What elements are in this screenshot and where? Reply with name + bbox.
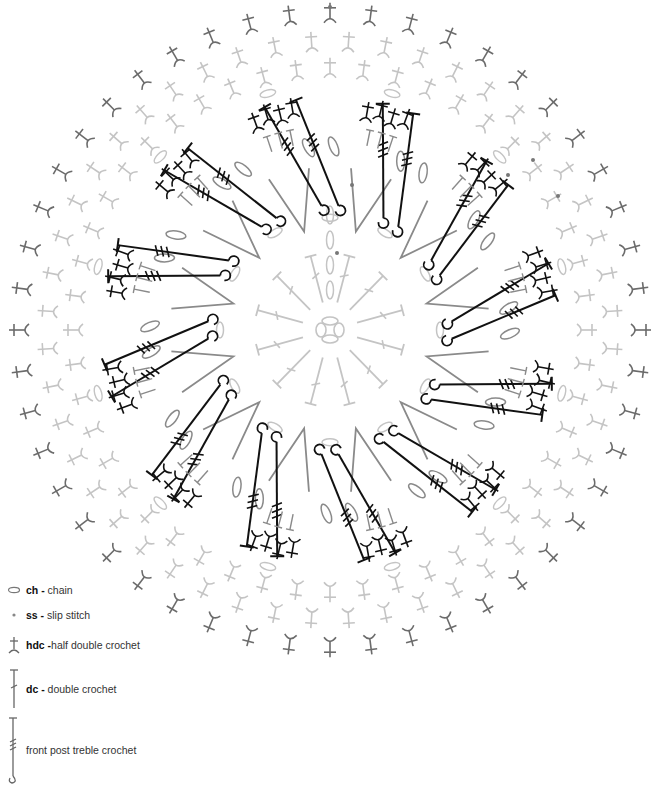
hdc-stitch — [377, 36, 393, 58]
hdc-stitch — [577, 324, 597, 336]
chain-stitch — [93, 258, 104, 275]
fan-stitch — [139, 262, 157, 275]
hdc-cluster-stitch — [161, 470, 184, 492]
hdc-stitch — [324, 582, 336, 602]
slip-stitch — [328, 5, 332, 9]
hdc-stitch — [597, 266, 619, 282]
center-ring — [316, 206, 344, 343]
fptr-stitch — [161, 164, 273, 236]
hdc-stitch — [241, 625, 258, 647]
hdc-stitch — [18, 404, 40, 421]
hdc-stitch — [377, 602, 393, 624]
hdc-cluster-stitch — [527, 385, 550, 402]
hdc-stitch — [222, 561, 241, 584]
hdc-stitch — [402, 12, 419, 34]
slip-stitch — [531, 158, 535, 162]
dc-stitch — [256, 337, 303, 355]
hdc-stitch — [71, 254, 93, 271]
fan-stitch — [178, 192, 195, 209]
hdc-stitch — [81, 421, 104, 440]
hdc-stitch — [419, 561, 438, 584]
hdc-stitch — [572, 448, 595, 468]
hdc-stitch — [565, 512, 588, 534]
hdc-stitch — [195, 577, 215, 600]
hdc-stitch — [363, 634, 378, 655]
hdc-stitch — [289, 59, 304, 80]
chain-stitch — [556, 385, 567, 402]
hdc-stitch — [356, 579, 371, 600]
hdc-stitch — [565, 126, 588, 148]
hdc-stitch — [388, 66, 405, 88]
hdc-stitch — [574, 289, 595, 304]
hdc-stitch — [162, 558, 183, 581]
fan-stitch — [363, 129, 374, 146]
hdc-stitch — [475, 44, 495, 67]
hdc-stitch — [448, 91, 468, 114]
hdc-stitch — [255, 66, 272, 88]
hdc-stitch — [31, 442, 54, 461]
chain-stitch — [259, 88, 276, 99]
hdc-stitch — [267, 602, 283, 624]
hdc-stitch — [267, 36, 283, 58]
hdc-stitch — [419, 76, 438, 99]
hdc-stitch — [137, 133, 160, 156]
hdc-stitch — [96, 451, 119, 471]
hdc-stitch — [476, 526, 498, 549]
hdc-cluster-stitch — [115, 397, 138, 415]
hdc-stitch — [539, 94, 562, 117]
fan-stitch — [139, 386, 157, 399]
hdc-stitch — [588, 161, 611, 181]
fan-stitch — [263, 135, 276, 153]
hdc-stitch — [132, 101, 154, 124]
hdc-stitch — [195, 59, 215, 82]
hdc-stitch — [18, 239, 40, 256]
hdc-stitch — [65, 448, 88, 468]
hdc-stitch — [41, 266, 63, 282]
chain-stitch — [383, 561, 400, 572]
hdc-stitch — [83, 480, 106, 501]
hdc-stitch — [628, 281, 649, 296]
chain-stitch — [492, 495, 508, 511]
hdc-stitch — [164, 593, 184, 616]
hdc-stitch — [500, 504, 523, 527]
crochet-chart — [0, 0, 654, 785]
hdc-cluster-stitch — [522, 245, 545, 263]
dc-stitch — [350, 272, 387, 310]
fan-stitch — [384, 135, 397, 153]
hdc-stitch — [445, 577, 465, 600]
hdc-stitch — [440, 25, 459, 48]
hdc-stitch — [587, 228, 610, 246]
chain-stitch — [383, 88, 400, 99]
chain-stitch — [152, 495, 168, 511]
hdc-stitch — [37, 342, 58, 355]
hdc-stitch — [342, 32, 355, 53]
hdc-stitch — [64, 289, 85, 304]
hdc-stitch — [539, 543, 562, 566]
hdc-stitch — [506, 101, 528, 124]
hdc-cluster-stitch — [180, 488, 202, 511]
hdc-stitch — [163, 110, 185, 133]
fptr-stitch — [167, 388, 238, 502]
fptr-stitch — [392, 113, 428, 238]
hdc-stitch — [445, 59, 465, 82]
hdc-stitch — [282, 5, 297, 26]
fan-stitch — [509, 364, 526, 375]
dc-v-stitch — [171, 265, 241, 308]
hdc-stitch — [477, 558, 498, 581]
dc-v-stitch — [266, 420, 309, 492]
hdc-stitch — [255, 572, 272, 594]
hdc-stitch — [619, 239, 641, 256]
hdc-cluster-stitch — [477, 167, 500, 189]
chain-stitch — [492, 149, 508, 165]
hdc-stitch — [63, 324, 83, 336]
hdc-stitch — [522, 479, 545, 501]
hdc-stitch — [106, 129, 129, 151]
hdc-cluster-stitch — [246, 111, 264, 134]
hdc-stitch — [191, 91, 211, 114]
hdc-stitch — [602, 305, 623, 318]
slip-stitch — [350, 183, 354, 187]
hdc-stitch — [324, 58, 336, 78]
hdc-stitch — [11, 281, 32, 296]
dc-stitch — [357, 337, 404, 355]
hdc-stitch — [99, 543, 122, 566]
